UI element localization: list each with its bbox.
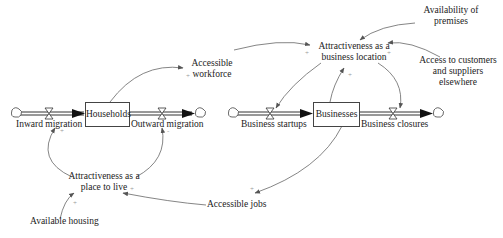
stock-businesses[interactable]: Businesses: [313, 102, 360, 127]
polarity-sign: +: [368, 42, 372, 50]
var-line: Attractiveness as a: [64, 171, 144, 182]
var-line: business location: [310, 52, 398, 63]
valve-closures: [389, 108, 397, 119]
var-available-housing[interactable]: Available housing: [30, 216, 99, 227]
polarity-sign: +: [250, 185, 254, 193]
var-line: Accessible: [186, 58, 238, 69]
valve-startups: [266, 108, 274, 119]
cloud-source-startups: [228, 108, 238, 118]
link-attractbiz-closures: [378, 63, 401, 108]
link-attractlive-outward: [136, 128, 163, 177]
var-line: premises: [413, 16, 489, 27]
polarity-sign: -: [167, 127, 169, 135]
link-households-workforce: [110, 67, 183, 102]
cloud-sink-closures: [433, 108, 443, 118]
flow-label-closures: Business closures: [361, 119, 428, 130]
var-line: workforce: [186, 69, 238, 80]
flow-label-inward: Inward migration: [16, 119, 82, 130]
var-line: Attractiveness as a: [310, 41, 398, 52]
polarity-sign: +: [73, 199, 77, 207]
valve-outward: [158, 108, 166, 119]
var-accessible-workforce[interactable]: Accessible workforce: [186, 58, 238, 80]
cloud-sink-outward: [195, 108, 205, 118]
polarity-sign: +: [387, 49, 391, 57]
polarity-sign: +: [348, 71, 352, 79]
var-availability-premises[interactable]: Availability of premises: [413, 5, 489, 27]
link-jobs-attractlive: [123, 193, 206, 205]
flow-pipe-closures: [358, 112, 425, 115]
polarity-sign: +: [60, 127, 64, 135]
flow-label-startups: Business startups: [241, 119, 307, 130]
link-workforce-attractbiz: [234, 42, 310, 50]
var-line: and suppliers: [414, 66, 502, 77]
polarity-sign: +: [305, 49, 309, 57]
link-businesses-attractbiz: [330, 68, 344, 102]
flow-arrow-inward: [72, 109, 85, 118]
link-businesses-jobs: [255, 126, 342, 193]
stock-households[interactable]: Households: [85, 102, 130, 127]
polarity-sign: +: [130, 185, 134, 193]
var-line: elsewhere: [414, 77, 502, 88]
valve-inward: [45, 108, 53, 119]
var-access-customers[interactable]: Access to customers and suppliers elsewh…: [414, 55, 502, 88]
var-accessible-jobs[interactable]: Accessible jobs: [207, 199, 266, 210]
link-attractlive-inward: [48, 128, 72, 177]
cloud-source-inward: [11, 108, 21, 118]
polarity-sign: +: [186, 72, 190, 80]
var-attract-business[interactable]: Attractiveness as a business location: [310, 41, 398, 63]
flow-pipe-startups: [235, 112, 300, 115]
var-line: Access to customers: [414, 55, 502, 66]
link-premises-attractbiz: [360, 23, 415, 40]
var-line: Availability of: [413, 5, 489, 16]
